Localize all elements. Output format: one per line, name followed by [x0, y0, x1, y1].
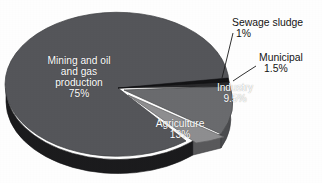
slice-value-sewage-sludge: 1% — [236, 28, 303, 39]
slice-label-municipal-name: Municipal — [259, 52, 303, 63]
slice-label-industry-name: Industry — [204, 82, 266, 93]
slice-label-municipal: Municipal 1.5% — [259, 52, 303, 74]
slice-value-agriculture: 13% — [140, 129, 220, 140]
slice-label-mining-line2: and gas — [33, 66, 125, 77]
slice-label-mining: Mining and oil and gas production 75% — [33, 55, 125, 99]
slice-label-sewage-sludge: Sewage sludge 1% — [232, 17, 303, 39]
leader-line-municipal — [233, 66, 256, 81]
slice-label-industry: Industry 9.5% — [204, 82, 266, 104]
slice-value-mining: 75% — [33, 88, 125, 99]
slice-label-mining-line1: Mining and oil — [33, 55, 125, 66]
slice-label-mining-line3: production — [33, 77, 125, 88]
slice-label-sewage-sludge-name: Sewage sludge — [232, 17, 303, 28]
slice-value-municipal: 1.5% — [264, 63, 303, 74]
slice-value-industry: 9.5% — [204, 93, 266, 104]
slice-label-agriculture-name: Agriculture — [140, 118, 220, 129]
pie-chart: Mining and oil and gas production 75% Ag… — [0, 0, 322, 183]
slice-label-agriculture: Agriculture 13% — [140, 118, 220, 140]
